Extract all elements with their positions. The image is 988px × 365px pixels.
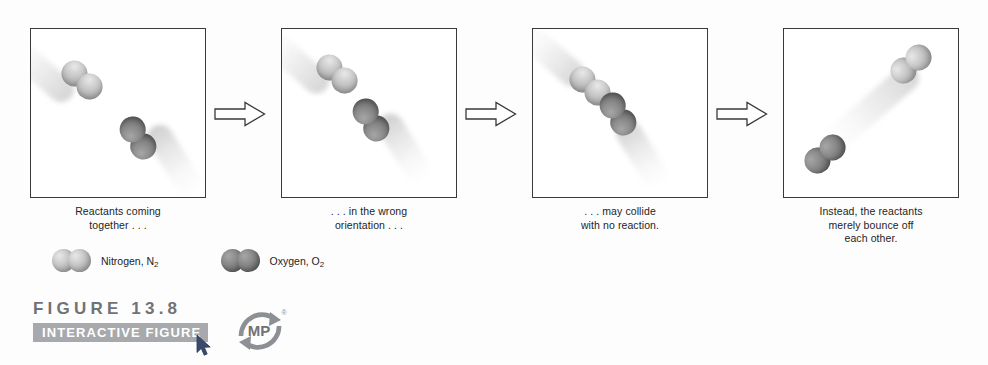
mouse-cursor-icon [194, 334, 214, 358]
panel-3-caption: . . . may collide with no reaction. [532, 205, 708, 232]
caption-line: with no reaction. [532, 219, 708, 233]
panel-2: . . . in the wrong orientation . . . [281, 28, 457, 232]
caption-line: Instead, the reactants [783, 205, 959, 219]
logo-text: MP [248, 322, 271, 339]
molecule-legend: Nitrogen, N2 Oxygen, O2 [52, 249, 324, 272]
panel-4: Instead, the reactants merely bounce off… [783, 28, 959, 246]
registered-trademark-icon: ® [281, 309, 287, 316]
caption-line: orientation . . . [281, 219, 457, 233]
panel-1-image [30, 28, 206, 198]
panel-strip: Reactants coming together . . . . . . in [0, 0, 988, 250]
panel-2-caption: . . . in the wrong orientation . . . [281, 205, 457, 232]
interactive-figure-root: Reactants coming together . . . . . . in [0, 0, 988, 365]
legend-item-oxygen: Oxygen, O2 [221, 249, 325, 272]
caption-line: together . . . [30, 219, 206, 233]
panel-1-caption: Reactants coming together . . . [30, 205, 206, 232]
legend-label-nitrogen: Nitrogen, N2 [101, 255, 159, 267]
mastering-chemistry-logo[interactable]: MP ® [231, 303, 289, 359]
panel-4-image [783, 28, 959, 198]
caption-line: . . . may collide [532, 205, 708, 219]
nitrogen-swatch-icon [52, 249, 92, 272]
flow-arrow-icon [716, 101, 768, 127]
oxygen-atom [237, 249, 260, 272]
caption-line: each other. [783, 232, 959, 246]
flow-arrow-icon [465, 101, 517, 127]
caption-line: Reactants coming [30, 205, 206, 219]
oxygen-motion-trail [142, 120, 205, 198]
panel-4-caption: Instead, the reactants merely bounce off… [783, 205, 959, 246]
panel-3-image [532, 28, 708, 198]
oxygen-swatch-icon [221, 249, 261, 272]
panel-2-image [281, 28, 457, 198]
interactive-figure-banner[interactable]: INTERACTIVE FIGURE [33, 323, 208, 342]
caption-line: merely bounce off [783, 219, 959, 233]
caption-line: . . . in the wrong [281, 205, 457, 219]
flow-arrow-icon [214, 101, 266, 127]
legend-item-nitrogen: Nitrogen, N2 [52, 249, 159, 272]
legend-label-oxygen: Oxygen, O2 [270, 255, 325, 267]
nitrogen-atom [68, 249, 91, 272]
legend-subscript: 2 [320, 260, 324, 269]
legend-name: Oxygen, O [270, 255, 320, 267]
legend-subscript: 2 [154, 260, 158, 269]
panel-3: . . . may collide with no reaction. [532, 28, 708, 232]
panel-1: Reactants coming together . . . [30, 28, 206, 232]
legend-name: Nitrogen, N [101, 255, 154, 267]
